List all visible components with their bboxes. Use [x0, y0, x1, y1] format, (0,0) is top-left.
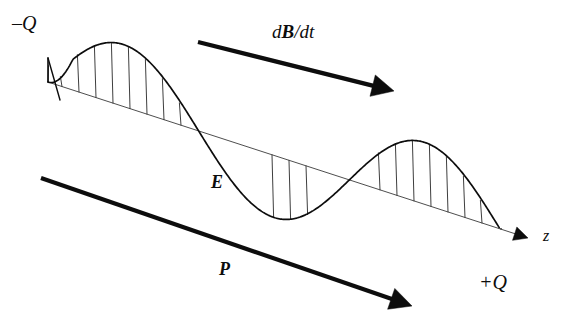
field-hatch-line	[463, 176, 465, 217]
field-vector-hatches-group	[48, 43, 502, 229]
field-hatch-line	[77, 55, 79, 92]
field-hatch-line	[162, 79, 164, 120]
field-hatch-line	[480, 200, 482, 223]
z-axis-group	[48, 82, 528, 240]
field-hatch-line	[429, 145, 431, 206]
field-hatch-line	[145, 60, 147, 115]
electric-field-wave-group	[48, 43, 499, 228]
electric-field-wave-path	[48, 43, 499, 228]
field-hatch-line	[179, 103, 181, 125]
field-hatch-line	[446, 157, 448, 212]
field-hatch-line	[306, 166, 308, 215]
physics-figure: –Q +Q E P dB/dt z	[0, 0, 566, 325]
label-dbdt-suffix: /dt	[294, 21, 314, 42]
field-hatch-line	[128, 47, 130, 108]
label-axis-z: z	[543, 228, 549, 244]
field-hatch-line	[412, 140, 414, 200]
field-hatch-line	[289, 160, 291, 219]
label-dbdt-prefix: d	[272, 21, 282, 42]
polarization-arrow-shaft	[41, 178, 394, 300]
field-hatch-line	[272, 155, 274, 217]
label-charge-positive: +Q	[479, 272, 507, 292]
field-hatch-line	[378, 153, 380, 190]
field-hatch-line	[395, 143, 397, 195]
label-dbdt-symbol: B	[282, 21, 295, 42]
polarization-arrow-head	[388, 288, 412, 309]
label-electric-field: E	[211, 173, 223, 191]
field-hatch-line	[94, 45, 96, 97]
label-dbdt: dB/dt	[272, 22, 314, 41]
dbdt-arrow-shaft	[198, 42, 376, 86]
label-polarization: P	[219, 260, 230, 278]
z-axis-arrowhead	[513, 227, 528, 240]
dbdt-arrow-head	[370, 75, 394, 96]
label-charge-negative: –Q	[12, 13, 36, 33]
field-hatch-line	[111, 43, 113, 104]
